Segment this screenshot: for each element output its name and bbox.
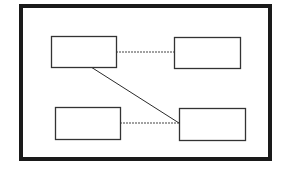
- node-box: [52, 37, 117, 68]
- node-box: [180, 109, 246, 141]
- node-group: [52, 37, 246, 141]
- node-top-right: [175, 38, 241, 69]
- node-box: [56, 108, 121, 140]
- node-bottom-right: [180, 109, 246, 141]
- node-bottom-left: [56, 108, 121, 140]
- node-box: [175, 38, 241, 69]
- block-diagram: [0, 0, 290, 174]
- node-top-left: [52, 37, 117, 68]
